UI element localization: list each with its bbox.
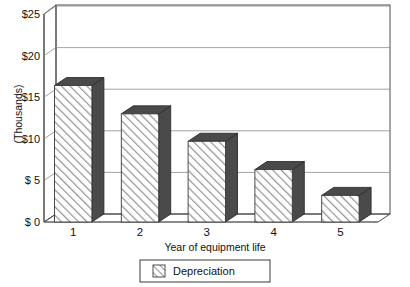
x-axis-title: Year of equipment life [164, 241, 265, 253]
bar-1 [54, 78, 103, 222]
bar-side-face [292, 162, 304, 222]
x-tick-label: 5 [337, 226, 343, 238]
bar-side-face [92, 78, 104, 222]
bar-side-face [226, 133, 238, 222]
bar-front-face [54, 86, 91, 222]
x-tick-label: 1 [70, 226, 76, 238]
bar-side-face [159, 106, 171, 222]
bar-2 [121, 106, 170, 222]
chart-legend: Depreciation [140, 260, 270, 282]
chart-canvas: $ 0$ 5$10$15$20$25 12345 Year of equipme… [0, 0, 410, 287]
legend-label-depreciation: Depreciation [173, 265, 235, 277]
y-tick-label: $15 [22, 91, 40, 103]
bar-5 [322, 187, 371, 222]
x-tick-label: 3 [204, 226, 210, 238]
x-tick-label: 2 [137, 226, 143, 238]
y-tick-label: $20 [22, 50, 40, 62]
bar-front-face [121, 114, 158, 222]
bar-3 [188, 133, 237, 222]
y-tick-label: $10 [22, 133, 40, 145]
bar-front-face [322, 195, 359, 222]
depreciation-bar-chart: $ 0$ 5$10$15$20$25 12345 Year of equipme… [0, 0, 410, 287]
bar-front-face [188, 141, 225, 222]
y-axis-title: (Thousands) [12, 85, 24, 144]
x-tick-label: 4 [270, 226, 277, 238]
y-tick-label: $ 0 [25, 216, 40, 228]
y-tick-label: $25 [22, 8, 40, 20]
y-tick-label: $ 5 [25, 174, 40, 186]
bar-4 [255, 162, 304, 222]
bar-front-face [255, 170, 292, 222]
legend-swatch-depreciation [153, 265, 165, 277]
